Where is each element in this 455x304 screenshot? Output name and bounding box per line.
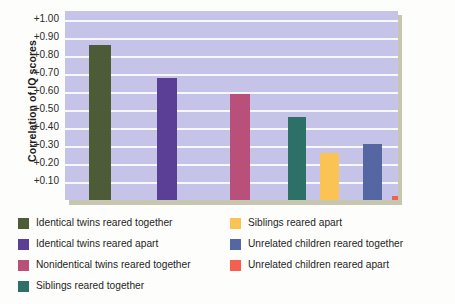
legend-item: Unrelated children reared apart: [230, 255, 452, 275]
bar: [89, 45, 111, 200]
legend-item-label: Siblings reared together: [36, 281, 144, 291]
legend-item: Nonidentical twins reared together: [18, 255, 233, 275]
y-axis-tick-label: +0.90: [0, 31, 59, 42]
gridline: [65, 20, 398, 22]
legend-item-label: Identical twins reared apart: [36, 239, 158, 249]
legend-item: Siblings reared apart: [230, 213, 452, 233]
legend-swatch-icon: [230, 218, 241, 229]
iq-correlation-chart: Correlation of IQ scores +1.00+0.90+0.80…: [0, 0, 455, 304]
legend-item-label: Nonidentical twins reared together: [36, 260, 191, 270]
y-axis-tick-label: +0.60: [0, 85, 59, 96]
gridline: [65, 56, 398, 58]
y-axis-tick-label: +0.50: [0, 103, 59, 114]
gridline: [65, 74, 398, 76]
bar: [288, 117, 306, 200]
legend-swatch-icon: [18, 281, 29, 292]
bar: [363, 144, 382, 200]
legend-swatch-icon: [18, 239, 29, 250]
bar: [392, 196, 398, 200]
legend-column-right: Siblings reared apartUnrelated children …: [230, 213, 452, 276]
gridline: [65, 38, 398, 40]
legend-item-label: Unrelated children reared together: [248, 239, 403, 249]
y-axis-tick-label: +0.80: [0, 49, 59, 60]
bar: [320, 153, 339, 200]
y-axis-tick-label: +0.70: [0, 67, 59, 78]
legend-column-left: Identical twins reared togetherIdentical…: [18, 213, 233, 297]
legend-item: Identical twins reared together: [18, 213, 233, 233]
bar: [157, 78, 177, 200]
legend-swatch-icon: [18, 218, 29, 229]
legend-item-label: Unrelated children reared apart: [248, 260, 389, 270]
y-axis-tick-label: +0.30: [0, 139, 59, 150]
legend-item: Siblings reared together: [18, 276, 233, 296]
bar: [230, 94, 250, 200]
legend-swatch-icon: [230, 260, 241, 271]
y-axis-tick-label: +1.00: [0, 13, 59, 24]
legend-item: Identical twins reared apart: [18, 234, 233, 254]
y-axis-tick-label: +0.40: [0, 121, 59, 132]
legend-swatch-icon: [230, 239, 241, 250]
plot-area: [65, 11, 398, 200]
legend-swatch-icon: [18, 260, 29, 271]
legend-item-label: Siblings reared apart: [248, 218, 342, 228]
chart-legend: Identical twins reared togetherIdentical…: [0, 213, 455, 304]
y-axis-tick-label: +0.10: [0, 175, 59, 186]
legend-item-label: Identical twins reared together: [36, 218, 172, 228]
legend-item: Unrelated children reared together: [230, 234, 452, 254]
y-axis-tick-label: +0.20: [0, 157, 59, 168]
